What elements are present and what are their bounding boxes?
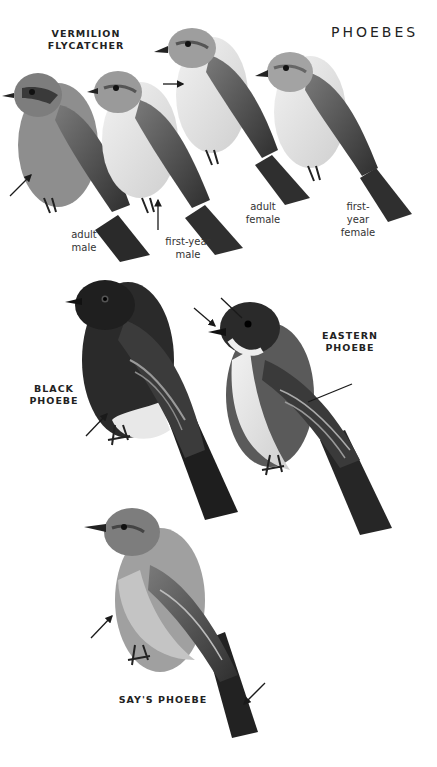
bird-black-phoebe — [65, 280, 238, 520]
caption-first-year-female: first- year female — [336, 200, 380, 239]
caption-adult-male: adult male — [62, 228, 106, 254]
arrow-says-phoebe-belly — [91, 616, 112, 638]
arrow-eastern-phoebe-bill — [194, 308, 215, 326]
arrow-eastern-phoebe-wing — [308, 384, 352, 402]
caption-adult-female: adult female — [240, 200, 286, 226]
species-label-black-phoebe: BLACK PHOEBE — [26, 383, 82, 407]
plate-title: PHOEBES — [331, 24, 418, 40]
arrow-says-phoebe-tail — [244, 683, 265, 704]
species-label-vermilion-flycatcher: VERMILION FLYCATCHER — [36, 28, 136, 52]
field-guide-plate: PHOEBES VERMILION FLYCATCHER BLACK PHOEB… — [0, 0, 437, 767]
species-label-says-phoebe: SAY'S PHOEBE — [118, 694, 208, 706]
caption-first-year-male: first-year male — [158, 235, 218, 261]
bird-vermilion-first-year-female — [255, 52, 412, 222]
species-label-eastern-phoebe: EASTERN PHOEBE — [315, 330, 385, 354]
